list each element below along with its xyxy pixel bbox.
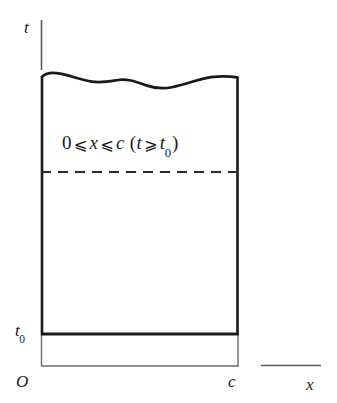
close-paren-glyph: ) xyxy=(172,132,179,153)
space-variable: x xyxy=(90,132,99,153)
upper-bound: c xyxy=(116,132,125,153)
t0-subscript: 0 xyxy=(19,333,25,346)
greater-equal-icon: ⩾ xyxy=(142,135,160,154)
region-wavy-top-boundary xyxy=(42,73,238,88)
less-equal-icon-1: ⩽ xyxy=(72,135,90,154)
lower-bound: 0 xyxy=(62,132,72,153)
t0-tick-label: t0 xyxy=(15,322,26,343)
t-axis-label: t xyxy=(24,19,29,36)
origin-label: O xyxy=(16,373,28,390)
c-tick-label: c xyxy=(228,373,236,390)
x-axis-label: x xyxy=(306,376,314,393)
less-equal-icon-2: ⩽ xyxy=(98,135,116,154)
figure-container: t t0 O c x 0⩽x⩽c (t⩾t0) xyxy=(0,0,337,403)
time-bound-subscript: 0 xyxy=(165,145,172,160)
region-diagram-svg xyxy=(0,0,337,403)
region-condition-label: 0⩽x⩽c (t⩾t0) xyxy=(62,133,179,157)
